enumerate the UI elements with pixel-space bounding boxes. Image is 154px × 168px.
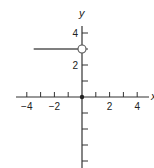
x-tick-label: −2 xyxy=(49,101,61,112)
x-axis-label: x xyxy=(150,90,154,102)
x-tick-label: 4 xyxy=(134,101,140,112)
x-tick-label: −4 xyxy=(21,101,33,112)
data-series xyxy=(34,45,86,53)
function-graph: −4−224 42 y x xyxy=(0,0,154,168)
open-circle-marker xyxy=(78,45,86,53)
y-axis-label: y xyxy=(78,7,86,19)
x-tick-label: 2 xyxy=(107,101,113,112)
filled-dot-marker xyxy=(80,95,84,99)
y-tick-label: 2 xyxy=(72,60,78,71)
x-axis-tick-labels: −4−224 xyxy=(21,101,140,112)
y-tick-label: 4 xyxy=(72,28,78,39)
annotations xyxy=(80,95,84,99)
